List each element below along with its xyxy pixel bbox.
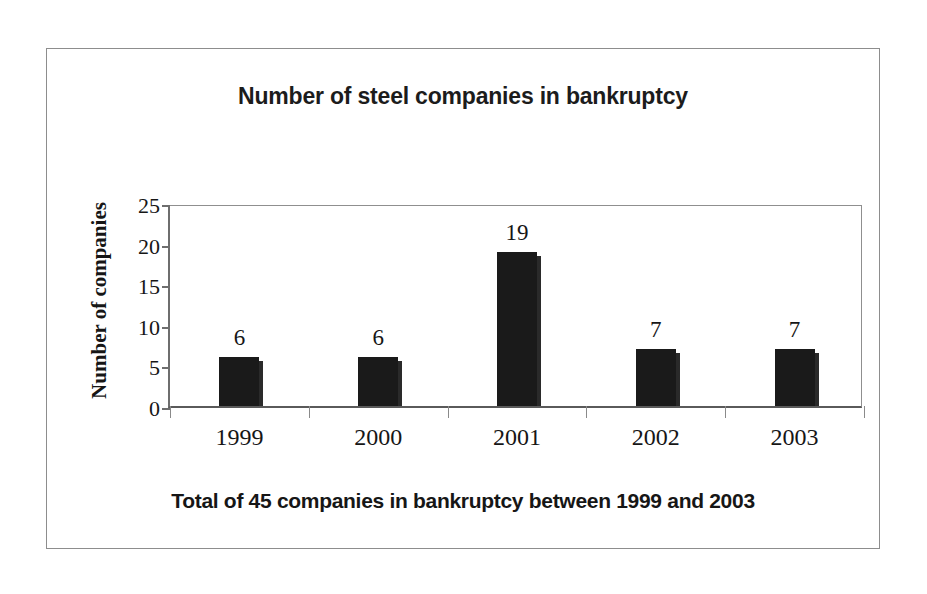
chart-caption: Total of 45 companies in bankruptcy betw… <box>46 489 880 513</box>
x-tick-label-2000: 2000 <box>354 424 402 451</box>
bar-2003[interactable] <box>775 349 815 406</box>
y-tick-label: 25 <box>138 193 160 219</box>
bar-value-label: 19 <box>506 220 529 246</box>
y-tick-mark <box>162 205 170 207</box>
bar-value-label: 7 <box>789 317 801 343</box>
y-tick-mark <box>162 367 170 369</box>
x-tick-label-1999: 1999 <box>215 424 263 451</box>
bar-2002[interactable] <box>636 349 676 406</box>
x-tick-mark <box>170 406 171 418</box>
bar-value-label: 7 <box>650 317 662 343</box>
x-tick-mark <box>864 406 865 418</box>
bar-2000[interactable] <box>358 357 398 406</box>
x-tick-mark <box>725 406 726 418</box>
x-tick-mark <box>586 406 587 418</box>
y-tick-label: 15 <box>138 274 160 300</box>
x-tick-mark <box>309 406 310 418</box>
plot-area: 2520151050 661977 19992000200120022003 <box>168 205 862 408</box>
y-tick-mark <box>162 286 170 288</box>
x-tick-label-2003: 2003 <box>771 424 819 451</box>
x-tick-label-2001: 2001 <box>493 424 541 451</box>
y-tick-label: 0 <box>149 396 160 422</box>
chart-page: Number of steel companies in bankruptcy … <box>0 0 927 594</box>
bar-value-label: 6 <box>234 325 246 351</box>
y-axis-title: Number of companies <box>87 176 112 426</box>
bar-value-label: 6 <box>372 325 384 351</box>
x-tick-mark <box>448 406 449 418</box>
bar-1999[interactable] <box>219 357 259 406</box>
x-tick-label-2002: 2002 <box>632 424 680 451</box>
y-tick-label: 20 <box>138 234 160 260</box>
y-tick-mark <box>162 408 170 410</box>
y-tick-label: 10 <box>138 315 160 341</box>
y-tick-mark <box>162 246 170 248</box>
chart-title: Number of steel companies in bankruptcy <box>46 83 880 110</box>
bar-2001[interactable] <box>497 252 537 406</box>
y-tick-mark <box>162 327 170 329</box>
y-tick-label: 5 <box>149 355 160 381</box>
